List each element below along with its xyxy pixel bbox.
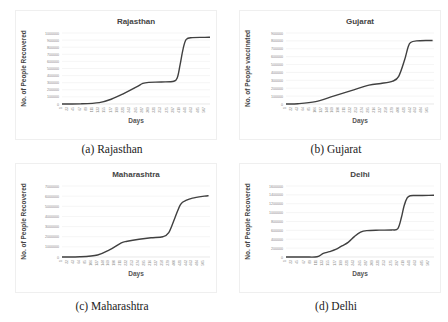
x-tick-label: 358 xyxy=(384,107,388,113)
x-tick-label: 253 xyxy=(130,260,134,266)
y-tick-label: 1400000 xyxy=(269,193,283,197)
y-tick-label: 400000 xyxy=(47,74,59,78)
y-tick-label: 7000000 xyxy=(45,185,59,189)
x-tick-label: 148 xyxy=(101,260,105,266)
x-tick-label: 106 xyxy=(313,107,317,113)
y-tick-label: 0 xyxy=(57,103,59,107)
x-tick-label: 295 xyxy=(366,107,370,113)
y-tick-label: 800000 xyxy=(47,46,59,50)
x-tick-label: 442 xyxy=(408,107,412,113)
x-tick-label: 45 xyxy=(71,107,75,111)
x-tick-label: 316 xyxy=(148,260,152,266)
y-tick-label: 5000000 xyxy=(45,205,59,209)
y-tick-label: 600000 xyxy=(47,60,59,64)
y-tick-label: 0 xyxy=(57,256,59,260)
x-tick-label: 199 xyxy=(339,260,343,266)
chart-title: Maharashtra xyxy=(112,170,160,179)
x-tick-label: 441 xyxy=(183,107,187,113)
y-tick-label: 700000 xyxy=(47,53,59,57)
x-tick-label: 485 xyxy=(420,260,424,266)
y-tick-label: 6000000 xyxy=(45,195,59,199)
x-tick-label: 190 xyxy=(112,260,116,266)
x-tick-label: 274 xyxy=(136,260,140,266)
x-tick-label: 1 xyxy=(283,260,287,262)
x-tick-label: 169 xyxy=(106,260,110,266)
x-tick-label: 375 xyxy=(389,260,393,266)
x-tick-label: 505 xyxy=(425,107,429,113)
x-tick-label: 400 xyxy=(172,260,176,266)
figure-caption: (c) Maharashtra xyxy=(0,300,224,312)
y-tick-label: 200000 xyxy=(271,87,283,91)
x-tick-label: 148 xyxy=(325,107,329,113)
x-tick-label: 22 xyxy=(65,260,69,264)
y-tick-label: 300000 xyxy=(271,79,283,83)
x-tick-label: 353 xyxy=(382,260,386,266)
chart-maharashtra: Maharashtra01000000200000030000004000000… xyxy=(16,164,216,292)
x-tick-label: 111 xyxy=(314,260,318,265)
x-tick-label: 211 xyxy=(118,260,122,266)
figure-caption: (d) Delhi xyxy=(224,300,448,312)
chart-frame: Delhi02000004000006000008000001000000120… xyxy=(239,163,441,293)
y-tick-label: 900000 xyxy=(47,39,59,43)
x-tick-label: 64 xyxy=(77,260,81,264)
x-tick-label: 64 xyxy=(301,107,305,111)
x-tick-label: 1 xyxy=(59,107,63,109)
x-tick-label: 421 xyxy=(402,107,406,113)
y-tick-label: 2000000 xyxy=(45,235,59,239)
x-tick-label: 111 xyxy=(90,107,94,112)
x-tick-label: 337 xyxy=(154,260,158,266)
x-tick-label: 419 xyxy=(401,260,405,266)
x-tick-label: 190 xyxy=(336,107,340,113)
y-tick-label: 1000000 xyxy=(269,211,283,215)
x-tick-label: 133 xyxy=(96,107,100,113)
chart-title: Rajasthan xyxy=(117,17,155,26)
x-tick-label: 463 xyxy=(413,107,417,113)
x-tick-label: 89 xyxy=(308,260,312,264)
y-tick-label: 0 xyxy=(281,103,283,107)
y-tick-label: 1600000 xyxy=(269,185,283,189)
x-tick-label: 23 xyxy=(289,260,293,264)
x-tick-label: 23 xyxy=(65,107,69,111)
y-tick-label: 900000 xyxy=(271,32,283,36)
y-tick-label: 400000 xyxy=(271,71,283,75)
x-tick-label: 505 xyxy=(201,260,205,266)
x-tick-label: 397 xyxy=(395,260,399,266)
x-tick-label: 419 xyxy=(177,107,181,113)
x-tick-label: 45 xyxy=(295,260,299,264)
x-tick-label: 265 xyxy=(358,260,362,266)
x-tick-label: 331 xyxy=(376,260,380,266)
panel-maharashtra: Maharashtra01000000200000030000004000000… xyxy=(0,161,224,322)
x-tick-label: 507 xyxy=(202,107,206,113)
x-tick-label: 484 xyxy=(419,107,423,113)
y-tick-label: 1000000 xyxy=(45,32,59,36)
y-axis-label: No. of People Recovered xyxy=(20,183,28,260)
x-tick-label: 243 xyxy=(351,260,355,266)
figure-caption: (a) Rajasthan xyxy=(0,143,224,155)
chart-frame: Maharashtra01000000200000030000004000000… xyxy=(15,163,217,293)
y-tick-label: 300000 xyxy=(47,81,59,85)
x-tick-label: 106 xyxy=(89,260,93,266)
x-axis-label: Days xyxy=(352,117,368,125)
y-tick-label: 400000 xyxy=(271,238,283,242)
x-tick-label: 379 xyxy=(166,260,170,266)
x-tick-label: 316 xyxy=(372,107,376,113)
y-tick-label: 3000000 xyxy=(45,225,59,229)
panel-delhi: Delhi02000004000006000008000001000000120… xyxy=(224,161,448,322)
x-tick-label: 133 xyxy=(320,260,324,266)
x-tick-label: 155 xyxy=(102,107,106,113)
x-tick-label: 337 xyxy=(378,107,382,113)
x-tick-label: 232 xyxy=(348,107,352,113)
chart-title: Gujarat xyxy=(346,17,374,26)
x-tick-label: 287 xyxy=(364,260,368,266)
y-tick-label: 500000 xyxy=(47,67,59,71)
x-axis-label: Days xyxy=(128,270,144,278)
chart-delhi: Delhi02000004000006000008000001000000120… xyxy=(240,164,440,292)
x-tick-label: 379 xyxy=(390,107,394,113)
x-tick-label: 155 xyxy=(326,260,330,266)
x-tick-label: 442 xyxy=(184,260,188,266)
x-tick-label: 221 xyxy=(121,107,125,113)
y-tick-label: 600000 xyxy=(271,229,283,233)
y-axis-label: No. of People vaccinated xyxy=(244,30,252,107)
y-tick-label: 100000 xyxy=(47,95,59,99)
figure-caption: (b) Gujarat xyxy=(224,143,448,155)
